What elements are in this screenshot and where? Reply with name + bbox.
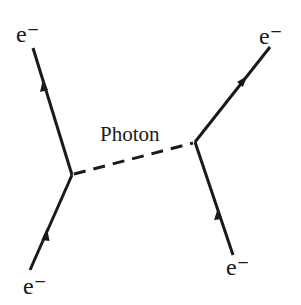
outgoing-electron-right-line bbox=[195, 47, 270, 142]
outgoing-electron-left-line bbox=[33, 48, 72, 175]
arrow-up-icon bbox=[214, 208, 222, 220]
photon-propagator-line bbox=[74, 143, 193, 174]
incoming-electron-right-line bbox=[195, 142, 233, 255]
label-incoming-electron-right: e⁻ bbox=[226, 254, 249, 280]
label-outgoing-electron-right: e⁻ bbox=[259, 23, 282, 49]
label-photon: Photon bbox=[100, 122, 160, 146]
label-outgoing-electron-left: e⁻ bbox=[16, 21, 39, 47]
incoming-electron-left-line bbox=[30, 175, 72, 270]
label-incoming-electron-left: e⁻ bbox=[23, 273, 46, 299]
feynman-diagram: e⁻ e⁻ e⁻ e⁻ Photon bbox=[0, 0, 301, 305]
